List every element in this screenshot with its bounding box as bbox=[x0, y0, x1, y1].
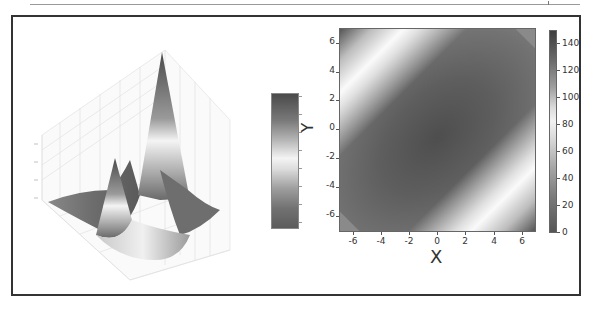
page-top-tick bbox=[548, 1, 549, 5]
contour-x-axis-label: X bbox=[430, 246, 442, 267]
contour-plot bbox=[339, 28, 536, 232]
surface-colorbar bbox=[271, 93, 299, 229]
contour-y-axis-label: Y bbox=[298, 123, 317, 133]
3d-z-axis-ticks bbox=[34, 144, 38, 198]
contour-colorbar bbox=[549, 30, 557, 233]
page-top-rule bbox=[30, 4, 580, 5]
surface-3d-plot bbox=[20, 30, 250, 285]
